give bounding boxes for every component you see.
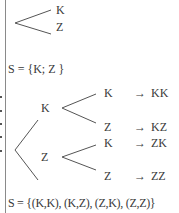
branch-line xyxy=(15,10,51,23)
edge-mark xyxy=(0,96,2,98)
branch-line xyxy=(62,145,96,157)
arrow-icon: → xyxy=(134,121,146,133)
outcome-kz: KZ xyxy=(151,121,167,133)
stage2-second-k1: K xyxy=(104,87,113,99)
branch-line xyxy=(15,120,38,150)
stage1-branch-k: K xyxy=(56,4,65,16)
edge-mark xyxy=(0,123,2,125)
arrow-icon: → xyxy=(134,170,146,182)
stage1-sample-space: S = {K; Z } xyxy=(8,63,64,75)
branch-line xyxy=(15,150,38,180)
branch-line xyxy=(15,23,51,34)
outcome-zz: ZZ xyxy=(151,170,166,182)
outcome-zk: ZK xyxy=(151,137,167,149)
branch-line xyxy=(62,108,96,123)
arrow-icon: → xyxy=(134,87,146,99)
branch-line xyxy=(62,94,96,108)
stage2-second-k2: K xyxy=(104,137,113,149)
branch-line xyxy=(62,157,96,170)
arrow-icon: → xyxy=(134,137,146,149)
stage2-sample-space: S = {(K,K), (K,Z), (Z,K), (Z,Z)} xyxy=(8,197,155,209)
stage2-first-k: K xyxy=(41,102,50,114)
edge-mark xyxy=(0,110,2,112)
stage1-branch-z: Z xyxy=(56,21,63,33)
outcome-kk: KK xyxy=(151,87,168,99)
stage2-first-z: Z xyxy=(41,151,48,163)
stage2-second-z2: Z xyxy=(104,170,111,182)
edge-mark xyxy=(0,150,2,152)
stage2-second-z1: Z xyxy=(104,121,111,133)
edge-mark xyxy=(0,136,2,138)
